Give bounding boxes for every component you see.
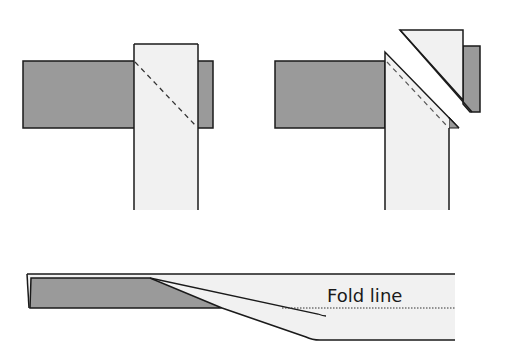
panel-step-2 — [275, 30, 480, 210]
panel-step-3: Fold line — [27, 274, 455, 340]
dark-strip-horizontal-2 — [275, 61, 385, 128]
light-strip-vertical — [134, 44, 198, 210]
panel-step-1 — [23, 44, 213, 210]
fold-line-label: Fold line — [327, 285, 402, 306]
detached-dark-piece — [463, 46, 480, 112]
diagram-canvas: Fold line — [0, 0, 505, 348]
